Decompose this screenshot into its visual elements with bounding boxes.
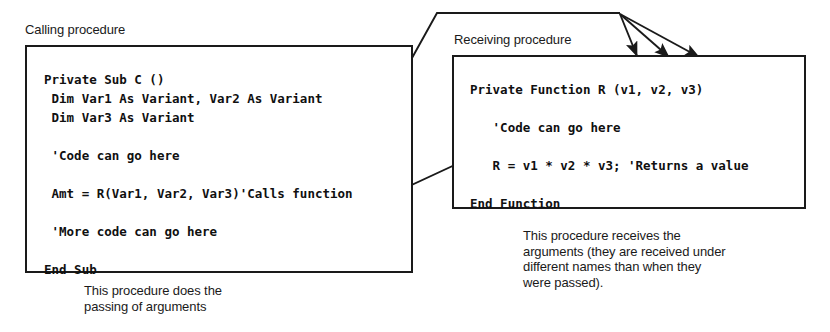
calling-procedure-note: This procedure does the passing of argum…: [84, 283, 222, 314]
diagram-canvas: Calling procedure Private Sub C () Dim V…: [0, 0, 830, 332]
calling-procedure-caption: Calling procedure: [25, 22, 125, 37]
arrow-to-v2: [620, 14, 669, 57]
receiving-procedure-code: Private Function R (v1, v2, v3) 'Code ca…: [470, 80, 748, 213]
receiving-procedure-caption: Receiving procedure: [454, 32, 571, 47]
argument-arrows: [620, 14, 699, 57]
arrow-to-v3: [620, 14, 699, 57]
receiving-procedure-note: This procedure receives the arguments (t…: [523, 228, 726, 290]
calling-procedure-code: Private Sub C () Dim Var1 As Variant, Va…: [44, 70, 353, 279]
arrow-to-v1: [620, 14, 637, 56]
